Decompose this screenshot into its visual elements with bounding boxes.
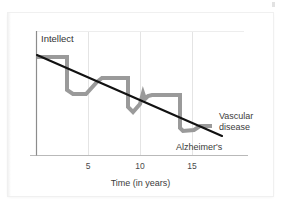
series-alzheimers [37, 55, 222, 136]
series-label-vascular-line2: disease [219, 122, 253, 133]
series-label-alzheimers: Alzheimer's [176, 142, 222, 153]
figure-root: Intellect Vascular disease Alzheimer's 5… [0, 0, 281, 202]
x-tick-label-15: 15 [187, 161, 196, 171]
y-axis-label-intellect: Intellect [41, 33, 74, 44]
x-axis-title: Time (in years) [111, 178, 171, 188]
x-tick-label-10: 10 [135, 161, 144, 171]
series-label-vascular-line1: Vascular [219, 111, 253, 122]
chart-canvas [0, 0, 281, 202]
series-label-vascular-disease: Vascular disease [219, 111, 253, 132]
chart-svg [0, 0, 281, 202]
x-tick-label-5: 5 [86, 161, 91, 171]
